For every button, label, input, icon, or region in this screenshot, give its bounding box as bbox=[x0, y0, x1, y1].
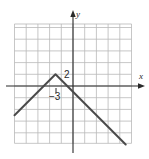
y-axis-label: y bbox=[75, 9, 80, 19]
y-axis-arrow-icon bbox=[70, 10, 75, 17]
x-axis-label: x bbox=[138, 71, 143, 81]
x-axis-arrow-icon bbox=[138, 83, 145, 88]
graph-plot: x y 2 −3 bbox=[0, 0, 149, 159]
vertex-x-label: −3 bbox=[49, 91, 61, 102]
vertex-y-label: 2 bbox=[64, 69, 70, 80]
